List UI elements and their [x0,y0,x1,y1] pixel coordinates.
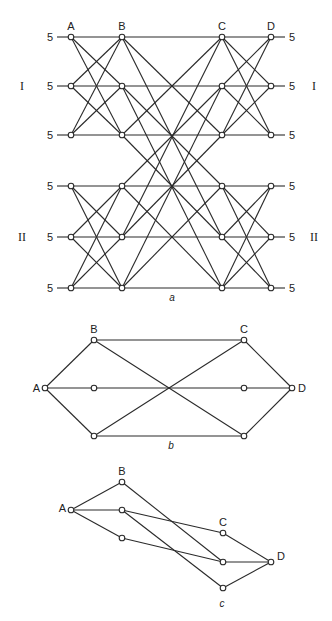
node-a [42,385,48,391]
node-a [68,285,74,291]
node-b [119,285,125,291]
node-a [68,34,74,40]
capacity-label-left: 5 [47,231,53,243]
edge-a-b [45,340,94,388]
node-c [219,132,225,138]
capacity-label-right: 5 [289,31,295,43]
capacity-label-left: 5 [47,31,53,43]
node-label-b: B [90,323,97,335]
node-c [219,83,225,89]
diagram-a-layered-network: 555555555555ABCDIIIIIIa [18,20,318,303]
caption-a: a [169,292,175,303]
node-bm [91,385,97,391]
capacity-label-left: 5 [47,180,53,192]
node-bm [119,507,125,513]
edge-c-d [223,533,271,562]
node-b [119,132,125,138]
node-b [119,83,125,89]
column-label: C [218,20,226,32]
group-label-right: II [310,230,318,244]
capacity-label-left: 5 [47,282,53,294]
node-c [219,183,225,189]
capacity-label-right: 5 [289,80,295,92]
capacity-label-right: 5 [289,129,295,141]
node-b [119,34,125,40]
node-bb [119,535,125,541]
node-d [268,132,274,138]
node-label-d: D [298,382,306,394]
diagram-c-skewed-network: ABCDc [59,465,285,609]
edge-cb-d [244,388,292,436]
node-label-b: B [118,465,125,477]
node-d [268,183,274,189]
node-cm [220,559,226,565]
node-d [289,385,295,391]
node-c [241,337,247,343]
node-c [220,530,226,536]
node-a [68,234,74,240]
capacity-label-left: 5 [47,80,53,92]
group-label-right: I [312,79,316,93]
network-diagrams: 555555555555ABCDIIIIIIa ABCDb ABCDc [0,0,332,621]
column-label: A [67,20,75,32]
node-b [119,183,125,189]
caption-c: c [220,598,225,609]
node-d [268,234,274,240]
node-label-a: A [33,382,41,394]
node-label-d: D [277,550,285,562]
group-label-left: I [20,79,24,93]
node-d [268,285,274,291]
node-b [119,479,125,485]
edge-c-d [244,340,292,388]
node-d [268,34,274,40]
node-bb [91,433,97,439]
node-c [219,34,225,40]
capacity-label-right: 5 [289,282,295,294]
node-c [219,285,225,291]
node-d [268,559,274,565]
capacity-label-right: 5 [289,231,295,243]
node-label-c: C [240,323,248,335]
node-cb [241,433,247,439]
node-a [68,132,74,138]
edge-a-b [71,482,122,510]
node-cb [220,585,226,591]
diagram-b-reduced-network: ABCDb [33,323,306,451]
capacity-label-right: 5 [289,180,295,192]
column-label: D [267,20,275,32]
node-b [91,337,97,343]
caption-b: b [168,440,174,451]
node-d [268,83,274,89]
node-label-c: C [219,516,227,528]
node-b [119,234,125,240]
node-cm [241,385,247,391]
group-label-left: II [18,230,26,244]
node-label-a: A [59,502,67,514]
node-c [219,234,225,240]
node-a [68,507,74,513]
edge-cb-d [223,562,271,588]
node-a [68,183,74,189]
edge-a-bb [45,388,94,436]
node-a [68,83,74,89]
capacity-label-left: 5 [47,129,53,141]
edge-a-bb [71,510,122,538]
column-label: B [118,20,125,32]
